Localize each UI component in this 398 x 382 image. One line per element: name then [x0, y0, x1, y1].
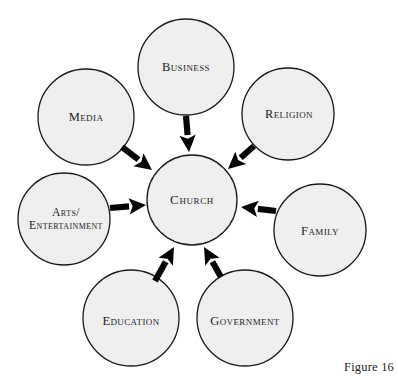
- arrow-family-to-church: [241, 201, 276, 217]
- arrow-family-to-church-head: [241, 201, 259, 217]
- arrow-arts-to-church: [110, 198, 146, 214]
- node-circle-religion[interactable]: [242, 68, 334, 160]
- arrow-government-to-church-shaft: [210, 260, 224, 278]
- arrow-business-to-church: [179, 116, 195, 152]
- node-circle-media[interactable]: [38, 69, 134, 165]
- diagram-canvas: [0, 0, 398, 382]
- arrow-government-to-church: [204, 247, 224, 279]
- node-circle-education[interactable]: [83, 270, 179, 366]
- arrow-family-to-church-shaft: [258, 206, 277, 214]
- arrow-business-to-church-head: [179, 134, 195, 152]
- node-circle-business[interactable]: [138, 19, 234, 115]
- node-circle-arts[interactable]: [18, 173, 110, 265]
- node-circle-family[interactable]: [274, 184, 366, 276]
- arrow-media-to-church: [120, 145, 152, 170]
- arrow-education-to-church-shaft: [152, 260, 168, 282]
- arrow-religion-to-church: [228, 144, 256, 169]
- node-circle-church[interactable]: [147, 155, 237, 245]
- circles-layer: [18, 19, 366, 366]
- arrow-religion-to-church-shaft: [239, 144, 256, 160]
- arrow-media-to-church-shaft: [120, 145, 140, 163]
- figure-container: BusinessReligionFamilyGovernmentEducatio…: [0, 0, 398, 382]
- arrow-business-to-church-shaft: [183, 116, 191, 136]
- node-circle-government[interactable]: [197, 270, 293, 366]
- arrow-education-to-church: [152, 247, 174, 283]
- figure-caption: Figure 16: [344, 360, 394, 375]
- arrow-arts-to-church-shaft: [110, 203, 130, 211]
- arrow-arts-to-church-head: [128, 198, 146, 214]
